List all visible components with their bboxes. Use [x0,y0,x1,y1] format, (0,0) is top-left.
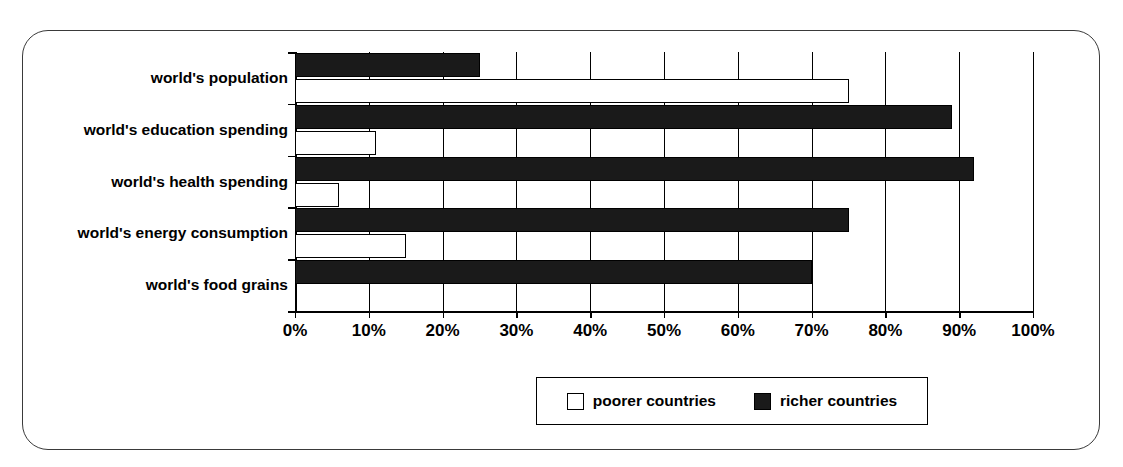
tick-mark-60 [738,311,739,318]
tick-mark-100 [1033,311,1034,318]
category-label-0: world's population [18,70,288,86]
xtick-label-20: 20% [426,322,460,339]
category-axis-labels: world's population world's education spe… [10,52,288,311]
bar-poorer-countries-1 [295,131,376,155]
bar-richer-countries-3 [295,208,849,232]
plot-area [295,52,1033,311]
chart-legend: poorer countries richer countries [536,377,928,425]
black-square-icon [754,393,771,410]
category-label-4: world's food grains [18,277,288,293]
bar-poorer-countries-3 [295,234,406,258]
bar-richer-countries-0 [295,53,480,77]
xtick-label-60: 60% [721,322,755,339]
tick-mark-30 [516,311,517,318]
legend-label-poorer-countries: poorer countries [593,393,716,409]
bar-poorer-countries-2 [295,183,339,207]
gridline-100 [1033,52,1034,311]
legend-entry-poorer-countries: poorer countries [567,393,716,410]
category-label-3: world's energy consumption [18,225,288,241]
tick-mark-70 [812,311,813,318]
tick-mark-50 [664,311,665,318]
xtick-label-10: 10% [352,322,386,339]
tick-mark-40 [590,311,591,318]
xtick-label-90: 90% [942,322,976,339]
legend-entry-richer-countries: richer countries [754,393,897,410]
tick-mark-20 [443,311,444,318]
tick-mark-90 [959,311,960,318]
white-square-icon [567,393,584,410]
gridline-80 [885,52,886,311]
category-axis-end-tick-0 [288,52,296,54]
tick-mark-10 [369,311,370,318]
category-tick-3 [288,207,296,209]
bar-richer-countries-4 [295,260,812,284]
xtick-label-100: 100% [1011,322,1054,339]
bar-richer-countries-1 [295,105,952,129]
tick-mark-80 [885,311,886,318]
chart-figure: world's population world's education spe… [0,0,1123,467]
xtick-label-30: 30% [499,322,533,339]
gridline-90 [959,52,960,311]
xtick-label-80: 80% [868,322,902,339]
category-tick-1 [288,104,296,106]
category-label-1: world's education spending [18,122,288,138]
xtick-label-50: 50% [647,322,681,339]
category-label-2: world's health spending [18,174,288,190]
bar-poorer-countries-4 [295,286,297,310]
xtick-label-0: 0% [283,322,308,339]
xtick-label-70: 70% [795,322,829,339]
category-tick-4 [288,259,296,261]
bar-richer-countries-2 [295,157,974,181]
xtick-label-40: 40% [573,322,607,339]
value-axis-tick-labels: 0%10%20%30%40%50%60%70%80%90%100% [295,322,1033,348]
bar-poorer-countries-0 [295,79,849,103]
category-tick-2 [288,156,296,158]
category-axis-end-tick-1 [288,311,296,313]
legend-label-richer-countries: richer countries [780,393,897,409]
